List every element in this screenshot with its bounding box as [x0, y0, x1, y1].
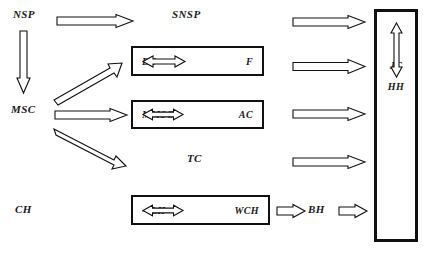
arrow-bh-to-hh — [338, 204, 368, 218]
arrow-snsp-to-jc — [292, 15, 366, 29]
label-bh: BH — [308, 203, 325, 215]
bidirectional-arrow-icon — [142, 108, 184, 121]
arrow-msc-to-mmsc — [54, 108, 128, 122]
node-label-f: F — [246, 56, 253, 67]
arrow-f-to-jc — [292, 59, 366, 74]
label-msc: MSC — [11, 103, 35, 115]
arrow-nsp-to-snsp — [56, 14, 134, 28]
arrow-tc-to-hh — [292, 155, 366, 169]
node-box-jc-hh: JC HH — [374, 9, 418, 242]
arrow-ac-to-jc — [292, 107, 366, 121]
bidirectional-arrow-icon — [142, 204, 184, 217]
node-box-bc-f: BC F — [131, 46, 264, 76]
arrow-msc-to-bc — [52, 60, 124, 110]
arrow-msc-to-lh — [52, 124, 128, 176]
arrow-wch-to-bh — [276, 204, 306, 218]
node-label-wch: WCH — [234, 205, 259, 216]
node-box-mmsc-ac-row: MMSC AC — [133, 102, 262, 127]
label-tc: TC — [187, 152, 202, 164]
label-nsp: NSP — [13, 8, 35, 20]
label-snsp: SNSP — [172, 8, 201, 20]
node-box-bc-f-row: BC F — [133, 48, 262, 74]
node-label-ac: AC — [239, 109, 253, 120]
node-box-lh-wch: ~ LH WCH — [131, 195, 270, 225]
node-box-lh-wch-row: ~ LH WCH — [133, 197, 268, 223]
bidirectional-arrow-icon — [142, 55, 186, 68]
process-flow-diagram: NSP SNSP MSC TC CH BH BC F MMSC AC ~ LH — [0, 0, 423, 253]
node-label-hh: HH — [388, 81, 404, 92]
label-ch: CH — [15, 203, 32, 215]
node-box-mmsc-ac: MMSC AC — [131, 100, 264, 129]
vertical-bidirectional-arrow-icon — [390, 22, 403, 78]
arrow-nsp-to-msc — [16, 30, 31, 94]
